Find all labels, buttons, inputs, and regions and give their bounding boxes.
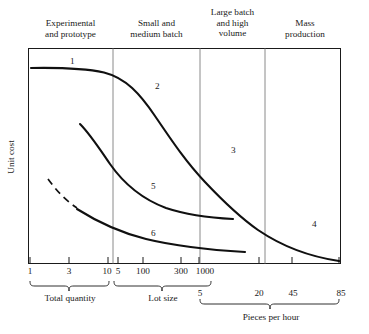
curve-label-5: 5 — [151, 181, 156, 191]
tick-label-quantity-1: 1 — [22, 266, 38, 276]
tick-label-quantity-3: 3 — [61, 266, 77, 276]
curve-6-dashed-segment — [48, 179, 77, 208]
tick-label-pieces-85: 85 — [331, 288, 351, 298]
curve-label-6: 6 — [151, 228, 156, 238]
axis-name-pieces-per-hour: Pieces per hour — [231, 312, 311, 322]
tick-label-pieces-45: 45 — [283, 288, 303, 298]
tick-label-pieces-20: 20 — [249, 288, 269, 298]
tick-label-lot-1000: 1000 — [190, 266, 220, 276]
tick-label-lot-5: 5 — [111, 266, 125, 276]
curve-label-1: 1 — [70, 56, 75, 66]
curve-label-3: 3 — [231, 145, 236, 155]
tick-label-lot-100: 100 — [131, 266, 155, 276]
plot-border — [29, 49, 341, 264]
plot-area — [0, 0, 369, 334]
axis-name-total-quantity: Total quantity — [34, 293, 106, 303]
curve-5 — [80, 124, 233, 219]
chart-figure: Experimental and prototype Small and med… — [0, 0, 369, 334]
brace-pieces-per-hour — [200, 299, 339, 309]
axis-name-lot-size: Lot size — [135, 293, 191, 303]
x-axis-ticks — [30, 257, 339, 264]
curve-label-2: 2 — [155, 81, 160, 91]
curve-6 — [77, 209, 245, 252]
curve-label-4: 4 — [312, 219, 317, 229]
curve-main-cost — [31, 68, 339, 261]
tick-label-pieces-5: 5 — [193, 288, 207, 298]
brace-total-quantity — [30, 281, 109, 291]
